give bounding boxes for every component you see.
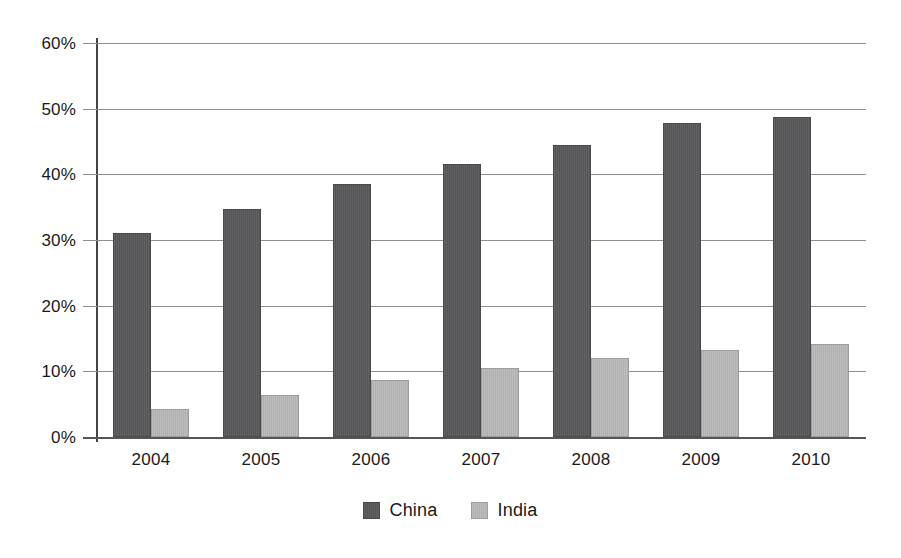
bar-group	[756, 43, 866, 437]
y-axis-tick-mark	[83, 306, 96, 307]
bar-slot	[223, 43, 261, 437]
bar-india-2010[interactable]	[811, 344, 849, 437]
bar-india-2008[interactable]	[591, 358, 629, 437]
bar-india-2005[interactable]	[261, 395, 299, 437]
bar-group	[316, 43, 426, 437]
bar-slot	[481, 43, 519, 437]
plot-area	[96, 43, 866, 437]
y-axis-tick-label: 50%	[12, 101, 76, 118]
x-axis-tick-label: 2006	[316, 451, 426, 468]
bar-india-2006[interactable]	[371, 380, 409, 437]
bar-slot	[333, 43, 371, 437]
x-axis-tick-label: 2010	[756, 451, 866, 468]
y-axis-tick-mark	[83, 109, 96, 110]
y-axis-tick-label: 60%	[12, 35, 76, 52]
y-axis-tick-mark	[83, 371, 96, 372]
bar-india-2004[interactable]	[151, 409, 189, 437]
x-axis-tick-label: 2007	[426, 451, 536, 468]
bar-china-2005[interactable]	[223, 209, 261, 437]
bar-slot	[553, 43, 591, 437]
legend-label-india: India	[497, 500, 537, 521]
y-axis-tick-mark	[83, 174, 96, 175]
y-axis-tick-label: 20%	[12, 298, 76, 315]
bar-india-2007[interactable]	[481, 368, 519, 437]
bar-china-2004[interactable]	[113, 233, 151, 437]
x-axis-tick-label: 2009	[646, 451, 756, 468]
x-axis-line	[83, 437, 866, 439]
y-axis-tick-mark	[83, 240, 96, 241]
bar-slot	[663, 43, 701, 437]
bar-group	[206, 43, 316, 437]
bar-china-2009[interactable]	[663, 123, 701, 437]
bar-china-2008[interactable]	[553, 145, 591, 437]
y-axis-tick-mark	[83, 43, 96, 44]
bar-slot	[113, 43, 151, 437]
legend-swatch-china-icon	[363, 502, 380, 519]
bar-slot	[151, 43, 189, 437]
y-axis-tick-label: 0%	[12, 429, 76, 446]
bar-group	[426, 43, 536, 437]
legend-label-china: China	[389, 500, 437, 521]
bar-chart: 0%10%20%30%40%50%60% 2004200520062007200…	[0, 0, 901, 558]
bar-slot	[773, 43, 811, 437]
legend-swatch-india-icon	[471, 502, 488, 519]
bar-slot	[371, 43, 409, 437]
bar-china-2010[interactable]	[773, 117, 811, 437]
x-axis-tick-label: 2004	[96, 451, 206, 468]
bar-slot	[443, 43, 481, 437]
bar-group	[536, 43, 646, 437]
bar-slot	[261, 43, 299, 437]
chart-legend: China India	[0, 500, 901, 521]
bar-china-2006[interactable]	[333, 184, 371, 437]
bar-india-2009[interactable]	[701, 350, 739, 437]
bar-group	[646, 43, 756, 437]
bar-group	[96, 43, 206, 437]
bar-slot	[591, 43, 629, 437]
bar-china-2007[interactable]	[443, 164, 481, 437]
y-axis-tick-label: 40%	[12, 166, 76, 183]
x-axis-tick-label: 2005	[206, 451, 316, 468]
y-axis-labels: 0%10%20%30%40%50%60%	[8, 0, 76, 558]
legend-item-india[interactable]: India	[471, 500, 537, 521]
bar-slot	[811, 43, 849, 437]
legend-item-china[interactable]: China	[363, 500, 437, 521]
y-axis-tick-label: 30%	[12, 232, 76, 249]
x-axis-labels: 2004200520062007200820092010	[96, 451, 866, 481]
x-axis-tick-label: 2008	[536, 451, 646, 468]
bar-slot	[701, 43, 739, 437]
y-axis-tick-label: 10%	[12, 363, 76, 380]
